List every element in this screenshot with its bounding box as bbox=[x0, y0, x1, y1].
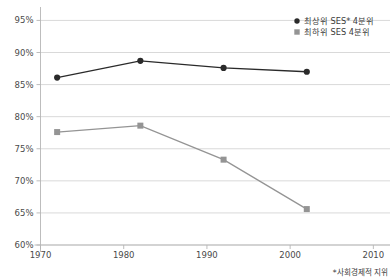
x-axis-ticks: 19701980199020002010 bbox=[30, 245, 384, 260]
y-tick-label: 85% bbox=[15, 80, 34, 90]
legend-label: 최상위 SES* 4분위 bbox=[304, 16, 374, 26]
y-tick-label: 80% bbox=[15, 112, 34, 122]
y-tick-label: 95% bbox=[15, 15, 34, 25]
legend-label: 최하위 SES 4분위 bbox=[304, 27, 370, 37]
gridlines bbox=[41, 20, 391, 245]
data-point bbox=[137, 123, 143, 129]
data-point bbox=[304, 69, 310, 75]
data-point bbox=[220, 65, 226, 71]
legend-marker bbox=[294, 18, 299, 23]
data-point bbox=[54, 129, 60, 135]
x-tick-label: 2010 bbox=[363, 250, 385, 260]
y-tick-label: 70% bbox=[15, 176, 34, 186]
y-tick-label: 75% bbox=[15, 144, 34, 154]
series-line bbox=[57, 61, 307, 78]
x-tick-label: 1970 bbox=[30, 250, 52, 260]
series-line bbox=[57, 126, 307, 209]
x-tick-label: 2000 bbox=[279, 250, 301, 260]
x-tick-label: 1980 bbox=[113, 250, 135, 260]
y-axis: 60%65%70%75%80%85%90%95% bbox=[15, 7, 41, 252]
chart-legend: 최상위 SES* 4분위최하위 SES 4분위 bbox=[294, 16, 374, 37]
data-point bbox=[304, 206, 310, 212]
x-tick-label: 1990 bbox=[196, 250, 218, 260]
data-series-layer bbox=[54, 58, 310, 212]
data-series-low-ses bbox=[54, 123, 310, 212]
y-tick-label: 60% bbox=[15, 240, 34, 250]
data-series-high-ses bbox=[54, 58, 310, 81]
y-tick-label: 65% bbox=[15, 208, 34, 218]
data-point bbox=[54, 74, 60, 80]
y-axis-ticks: 60%65%70%75%80%85%90%95% bbox=[15, 15, 41, 250]
legend-marker bbox=[294, 29, 299, 34]
chart-footnote: *사회경제적 지위 bbox=[333, 267, 388, 277]
data-point bbox=[221, 157, 227, 163]
data-point bbox=[137, 58, 143, 64]
y-tick-label: 90% bbox=[15, 48, 34, 58]
x-axis: 19701980199020002010 bbox=[30, 245, 390, 260]
line-chart: 60%65%70%75%80%85%90%95% 197019801990200… bbox=[0, 0, 392, 280]
chart-container: 60%65%70%75%80%85%90%95% 197019801990200… bbox=[0, 0, 392, 280]
